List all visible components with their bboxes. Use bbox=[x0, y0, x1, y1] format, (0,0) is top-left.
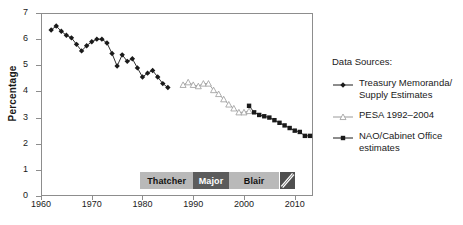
series-0 bbox=[48, 23, 170, 90]
pm-segment-label: Major bbox=[199, 176, 224, 186]
pm-segment-blair: Blair bbox=[229, 172, 280, 189]
data-point bbox=[308, 134, 312, 138]
data-point bbox=[267, 115, 271, 119]
data-point bbox=[293, 128, 297, 132]
legend: Data Sources: Treasury Memoranda/ Supply… bbox=[332, 56, 463, 162]
data-point bbox=[262, 114, 266, 118]
chart-screenshot: Percentage 01234567 19601970198019902000… bbox=[0, 0, 463, 225]
data-point bbox=[114, 63, 119, 68]
data-series-layer bbox=[0, 0, 320, 225]
legend-rows: Treasury Memoranda/ Supply EstimatesPESA… bbox=[332, 77, 463, 153]
data-point bbox=[277, 121, 281, 125]
open-triangle-icon bbox=[332, 109, 354, 121]
legend-item-0: Treasury Memoranda/ Supply Estimates bbox=[332, 77, 463, 100]
legend-title: Data Sources: bbox=[332, 56, 463, 68]
data-point bbox=[135, 65, 140, 70]
pm-segment-hatched bbox=[280, 172, 295, 189]
data-point bbox=[303, 134, 307, 138]
data-point bbox=[185, 79, 191, 85]
filled-square-icon bbox=[332, 130, 354, 142]
data-point bbox=[282, 123, 286, 127]
pm-segment-major: Major bbox=[193, 172, 229, 189]
data-point bbox=[287, 126, 291, 130]
legend-item-label: PESA 1992–2004 bbox=[359, 109, 434, 121]
legend-item-2: NAO/Cabinet Office estimates bbox=[332, 130, 463, 153]
prime-minister-timeline: ThatcherMajorBlair bbox=[0, 172, 320, 189]
data-point bbox=[94, 36, 99, 41]
pm-segment-label: Thatcher bbox=[147, 176, 186, 186]
chart-area: Percentage 01234567 19601970198019902000… bbox=[0, 0, 320, 225]
data-point bbox=[252, 110, 256, 114]
data-point bbox=[272, 118, 276, 122]
legend-item-label: NAO/Cabinet Office estimates bbox=[359, 130, 463, 153]
data-point bbox=[130, 56, 135, 61]
series-2 bbox=[247, 104, 312, 138]
legend-item-1: PESA 1992–2004 bbox=[332, 109, 463, 121]
pm-segment-label: Blair bbox=[244, 176, 265, 186]
filled-diamond-icon bbox=[332, 77, 354, 89]
pm-segment-thatcher: Thatcher bbox=[140, 172, 193, 189]
diagonal-stripe-icon bbox=[280, 172, 295, 189]
data-point bbox=[298, 130, 302, 134]
data-point bbox=[257, 113, 261, 117]
legend-item-label: Treasury Memoranda/ Supply Estimates bbox=[359, 77, 463, 100]
data-point bbox=[247, 104, 251, 108]
series-1 bbox=[180, 79, 252, 115]
data-point bbox=[109, 51, 114, 56]
